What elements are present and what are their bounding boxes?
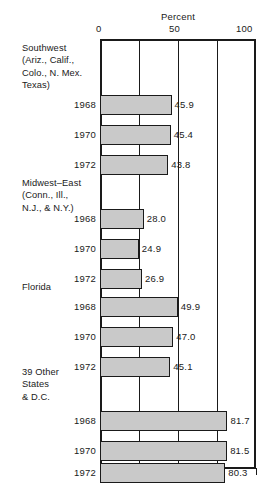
group-caption: Southwest(Ariz., Calif.,Colo., N. Mex.Te… (22, 42, 102, 92)
bar-value-label: 81.7 (230, 411, 249, 431)
bar-value-label: 45.9 (175, 95, 194, 115)
bar-value-label: 43.8 (171, 155, 190, 175)
bar-year-label: 1970 (56, 125, 96, 145)
bar-value-label: 26.9 (145, 269, 164, 289)
bar-value-label: 28.0 (147, 209, 166, 229)
bar-value-label: 45.4 (174, 125, 193, 145)
bar (100, 125, 171, 145)
x-tick-label-100: 100 (236, 23, 252, 34)
bar-row: 197245.1 (0, 357, 267, 377)
bar (100, 95, 172, 115)
bar (100, 269, 142, 289)
group-caption-line: (Conn., Ill., (22, 189, 102, 201)
bar-row: 197045.4 (0, 125, 267, 145)
bar-row: 197280.3 (0, 463, 267, 483)
bar-row: 197226.9 (0, 269, 267, 289)
horizontal-bar-chart: Percent 050100 Southwest(Ariz., Calif.,C… (0, 0, 267, 492)
bar-row: 196845.9 (0, 95, 267, 115)
bar-value-label: 47.0 (176, 327, 195, 347)
bar (100, 155, 168, 175)
bar-year-label: 1968 (56, 297, 96, 317)
group-caption-line: Colo., N. Mex. (22, 67, 102, 79)
axis-title-percent: Percent (148, 11, 208, 22)
bar-row: 197047.0 (0, 327, 267, 347)
bar-year-label: 1968 (56, 411, 96, 431)
bar (100, 297, 178, 317)
bar-value-label: 81.5 (230, 441, 249, 461)
bar (100, 411, 227, 431)
bar-year-label: 1970 (56, 441, 96, 461)
bar-year-label: 1972 (56, 463, 96, 483)
group-caption-line: Southwest (22, 42, 102, 54)
bar-row: 196881.7 (0, 411, 267, 431)
bar-year-label: 1972 (56, 269, 96, 289)
bar-year-label: 1970 (56, 327, 96, 347)
bar-year-label: 1972 (56, 357, 96, 377)
bar (100, 463, 225, 483)
bar (100, 239, 139, 259)
group-caption-line: Texas) (22, 79, 102, 91)
bar-row: 197243.8 (0, 155, 267, 175)
bar (100, 441, 227, 461)
bar-row: 197081.5 (0, 441, 267, 461)
group-caption-line: & D.C. (22, 391, 102, 403)
bar-year-label: 1968 (56, 95, 96, 115)
bar-row: 196828.0 (0, 209, 267, 229)
bar-row: 197024.9 (0, 239, 267, 259)
group-caption-line: States (22, 378, 102, 390)
bar (100, 209, 144, 229)
bar-row: 196849.9 (0, 297, 267, 317)
bar-value-label: 45.1 (173, 357, 192, 377)
bar-value-label: 49.9 (181, 297, 200, 317)
bar-year-label: 1972 (56, 155, 96, 175)
group-caption-line: (Ariz., Calif., (22, 54, 102, 66)
bar-value-label: 80.3 (228, 463, 247, 483)
bar-year-label: 1968 (56, 209, 96, 229)
bar-value-label: 24.9 (142, 239, 161, 259)
bar-year-label: 1970 (56, 239, 96, 259)
x-tick-label-0: 0 (96, 23, 101, 34)
group-caption-line: Midwest–East (22, 177, 102, 189)
bar (100, 327, 173, 347)
bar (100, 357, 170, 377)
x-tick-label-50: 50 (169, 23, 180, 34)
